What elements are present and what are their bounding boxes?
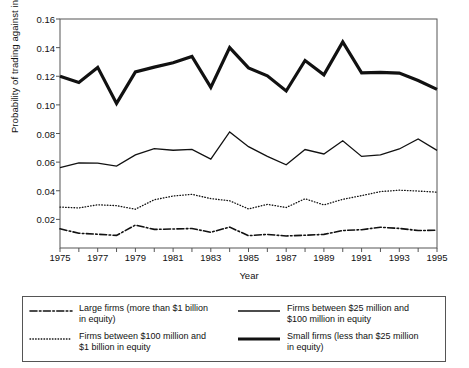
plot-area-wrapper: Probability of trading against insiders … bbox=[0, 0, 469, 290]
legend-swatch-thick-icon bbox=[237, 332, 281, 346]
series-line-1 bbox=[60, 190, 437, 209]
legend-swatch-solid-icon bbox=[237, 304, 281, 318]
legend-swatch-dotted-icon bbox=[29, 332, 73, 346]
series-line-3 bbox=[60, 42, 437, 104]
legend-label: Small firms (less than $25 million in eq… bbox=[287, 331, 419, 353]
legend-item: Small firms (less than $25 million in eq… bbox=[237, 331, 441, 357]
y-axis-tick-label: 0.16 bbox=[37, 14, 56, 25]
y-axis-tick-label: 0.02 bbox=[37, 214, 56, 225]
legend-item: Large firms (more than $1 billion in equ… bbox=[29, 303, 233, 329]
legend-label: Large firms (more than $1 billion in equ… bbox=[79, 303, 208, 325]
y-axis-tick-label: 0.06 bbox=[37, 157, 56, 168]
y-axis-tick-label: 0.08 bbox=[37, 128, 56, 139]
x-axis-tick-label: 1993 bbox=[379, 252, 419, 263]
x-axis-tick-label: 1975 bbox=[40, 252, 80, 263]
x-axis-tick-label: 1979 bbox=[115, 252, 155, 263]
x-axis-tick-label: 1985 bbox=[229, 252, 269, 263]
y-axis-tick-label: 0.12 bbox=[37, 71, 56, 82]
legend-item: Firms between $25 million and $100 milli… bbox=[237, 303, 441, 329]
x-axis-tick-label: 1991 bbox=[342, 252, 382, 263]
legend-swatch-dashdot-icon bbox=[29, 304, 73, 318]
x-axis-tick-label: 1995 bbox=[417, 252, 457, 263]
x-axis-tick-label: 1981 bbox=[153, 252, 193, 263]
x-axis-tick-label: 1977 bbox=[78, 252, 118, 263]
plot-frame bbox=[60, 19, 437, 248]
legend-label: Firms between $25 million and $100 milli… bbox=[287, 303, 409, 325]
legend-item: Firms between $100 million and $1 billio… bbox=[29, 331, 233, 357]
x-axis-tick-label: 1987 bbox=[266, 252, 306, 263]
y-axis-tick-label: 0.14 bbox=[37, 42, 56, 53]
x-axis-label: Year bbox=[60, 270, 438, 281]
series-line-0 bbox=[60, 225, 437, 236]
x-axis-tick-label: 1989 bbox=[304, 252, 344, 263]
y-axis-tick-label: 0.10 bbox=[37, 99, 56, 110]
x-axis-tick-label: 1983 bbox=[191, 252, 231, 263]
series-line-2 bbox=[60, 132, 437, 168]
plot-canvas bbox=[0, 0, 469, 290]
y-axis-label: Probability of trading against insiders bbox=[9, 0, 20, 154]
legend-label: Firms between $100 million and $1 billio… bbox=[79, 331, 206, 353]
chart-legend: Large firms (more than $1 billion in equ… bbox=[22, 296, 446, 362]
chart-figure: Probability of trading against insiders … bbox=[0, 0, 469, 368]
y-axis-tick-label: 0.04 bbox=[37, 185, 56, 196]
y-axis-tick-labels: 0.020.040.060.080.100.120.140.16 bbox=[22, 0, 55, 290]
